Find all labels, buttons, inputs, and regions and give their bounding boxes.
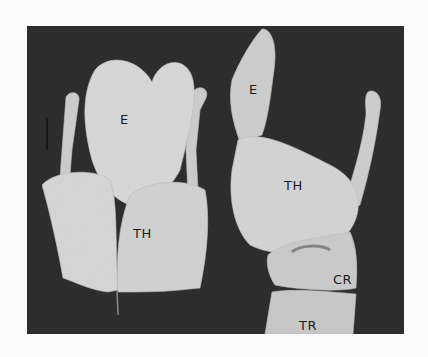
specimen-photograph: E TH E TH CR TR	[27, 26, 404, 334]
left-thyroid-lamina-a	[42, 172, 118, 292]
left-thyroid-lamina-b	[117, 182, 207, 292]
label-thyroid-left: TH	[133, 226, 152, 241]
left-superior-horn	[60, 93, 79, 178]
specimen-drawing	[27, 26, 404, 334]
label-epiglottis-left: E	[120, 112, 129, 127]
label-cricoid: CR	[333, 272, 352, 287]
label-trachea: TR	[299, 318, 317, 333]
label-thyroid-right: TH	[284, 178, 303, 193]
label-epiglottis-right: E	[249, 82, 258, 97]
